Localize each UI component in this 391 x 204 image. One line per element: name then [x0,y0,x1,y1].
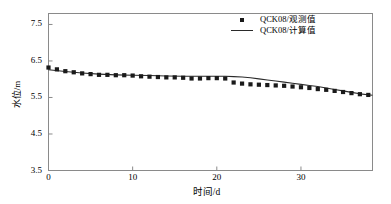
y-tick-label: 6.5 [20,55,42,65]
data-point [299,85,303,89]
data-point [46,65,50,69]
data-point [282,84,286,88]
data-point [366,93,370,97]
data-point [97,73,101,77]
data-point [72,70,76,74]
data-point [358,92,362,96]
data-point [274,83,278,87]
data-point [349,91,353,95]
x-axis-label-text: 时间/d [171,184,220,198]
data-point [122,73,126,77]
y-tick-label: 4.5 [20,128,42,138]
legend: QCK08/观测值 QCK08/计算值 [227,14,316,36]
data-point [248,82,252,86]
line-marker-icon [227,30,257,31]
legend-label-observed: QCK08/观测值 [257,14,316,25]
data-point [105,73,109,77]
y-tick-label: 7.5 [20,18,42,28]
data-point [223,76,227,80]
data-point [232,80,236,84]
data-point [114,73,118,77]
data-point [324,88,328,92]
data-point [198,76,202,80]
data-point [63,69,67,73]
x-axis-label: 时间/d [0,184,391,198]
data-point [206,76,210,80]
data-point [240,82,244,86]
data-point [189,76,193,80]
x-tick-label: 30 [289,172,313,182]
data-point [215,76,219,80]
data-point [316,87,320,91]
data-point [265,83,269,87]
data-point [147,75,151,79]
y-tick-label: 3.5 [20,165,42,175]
square-marker-icon [227,18,257,22]
x-tick-label: 10 [121,172,145,182]
data-point [290,84,294,88]
y-tick-label: 5.5 [20,91,42,101]
data-point [257,83,261,87]
data-point [181,76,185,80]
legend-item-observed: QCK08/观测值 [227,14,316,25]
legend-label-calculated: QCK08/计算值 [257,25,316,36]
data-point [333,89,337,93]
data-point [173,75,177,79]
x-tick-label: 20 [205,172,229,182]
data-point [131,73,135,77]
data-point [156,75,160,79]
data-point [341,90,345,94]
data-point [80,71,84,75]
data-point [88,72,92,76]
data-point [55,67,59,71]
data-point [307,86,311,90]
data-point [139,74,143,78]
legend-item-calculated: QCK08/计算值 [227,25,316,36]
data-point [164,75,168,79]
